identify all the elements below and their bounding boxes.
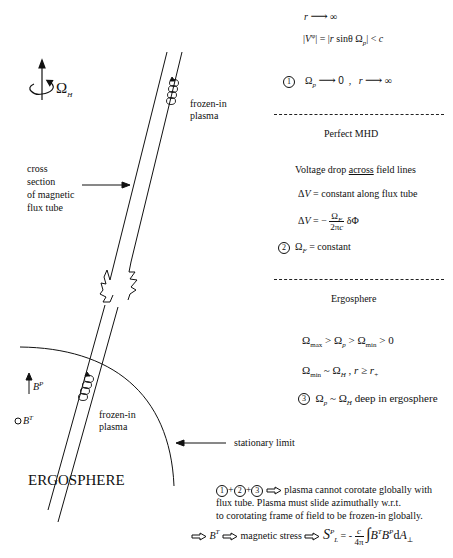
voltage-drop-line: Voltage drop across field lines [295,164,416,176]
delta-v-constant: ΔV = constant along flux tube [298,188,418,200]
conclusion-line-3: to corotating frame of field to be froze… [216,510,423,522]
divider-1 [274,114,444,116]
condition-1: 1 Ωp ⟶ 0 , r ⟶ ∞ [283,74,392,88]
b-toroidal-label: BT [23,415,33,427]
cross-section-arrow [82,182,130,188]
implies-arrow-icon [266,486,282,495]
section-ergosphere: Ergosphere [331,293,376,305]
stationary-limit-label: stationary limit [234,437,295,449]
flux-tube-break [100,262,137,302]
implies-arrow-icon [222,532,238,541]
plasma-coil-bottom-icon [79,372,94,401]
magnetic-stress-line: BT magnetic stress SPL = - c 4π ∫BTBPdA⊥ [191,526,413,547]
conclusion-line-1: 1+2+3 plasma cannot corotate globally wi… [216,484,432,497]
r-to-infinity: r ⟶ ∞ [304,10,337,23]
conclusion-line-2: flux tube. Plasma must slide azimuthally… [216,497,401,509]
rotation-axis-icon [30,60,54,100]
frozen-in-plasma-bottom-label: frozen-in plasma [99,409,136,433]
cross-section-label: cross section of magnetic flux tube [27,162,74,214]
omega-h-label: ΩH [56,82,72,95]
ergosphere-title: ERGOSPHERE [28,472,125,488]
section-perfect-mhd: Perfect MHD [324,128,378,140]
stationary-limit-arc [20,347,174,486]
omega-min-approx: Ωmin ~ ΩH , r ≥ r+ [302,364,378,376]
condition-3: 3 Ωp ~ ΩH deep in ergosphere [298,392,438,405]
implies-arrow-icon [191,532,207,541]
divider-2 [274,279,444,281]
b-poloidal-arrow-icon [26,373,32,394]
stress-fraction: c 4π [355,526,364,547]
b-toroidal-circle-icon [15,418,21,424]
implies-arrow-icon [304,532,320,541]
b-poloidal-label: BP [33,381,43,393]
omega-inequality: Ωmax > Ωp > Ωmin > 0 [302,334,394,346]
velocity-bound: |Vφ| = |r sinθ Ωp| < c [303,33,383,45]
delta-v-fraction: ΩF 2πc [329,211,344,232]
stationary-limit-arrow [176,440,226,446]
condition-2: 2 ΩF = constant [278,241,351,254]
delta-v-formula: ΔV = − ΩF 2πc δΦ [298,211,359,232]
frozen-in-plasma-top-label: frozen-in plasma [190,98,227,122]
